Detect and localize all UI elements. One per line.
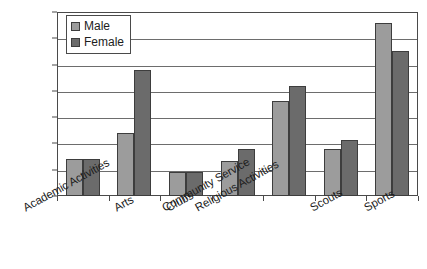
legend-swatch-male-icon bbox=[71, 22, 80, 31]
bar-chart: 0%5%10%15%20%25%30%35% Academic Activiti… bbox=[0, 0, 427, 269]
x-axis-tick-mark bbox=[263, 196, 264, 201]
x-axis-tick-mark bbox=[109, 196, 110, 201]
bar bbox=[272, 101, 289, 196]
bar bbox=[341, 140, 358, 196]
bar bbox=[289, 86, 306, 196]
legend-item-female: Female bbox=[71, 34, 124, 50]
x-axis-category-label: Arts bbox=[112, 193, 135, 213]
bar bbox=[392, 51, 409, 196]
bar bbox=[375, 23, 392, 196]
legend-label-male: Male bbox=[84, 19, 110, 33]
chart-legend: Male Female bbox=[66, 15, 131, 54]
bar bbox=[134, 70, 151, 196]
x-axis-tick-mark bbox=[418, 196, 419, 201]
legend-swatch-female-icon bbox=[71, 38, 80, 47]
x-axis-tick-mark bbox=[57, 196, 58, 201]
bar bbox=[117, 133, 134, 196]
legend-item-male: Male bbox=[71, 18, 124, 34]
x-axis-tick-mark bbox=[160, 196, 161, 201]
legend-label-female: Female bbox=[84, 35, 124, 49]
